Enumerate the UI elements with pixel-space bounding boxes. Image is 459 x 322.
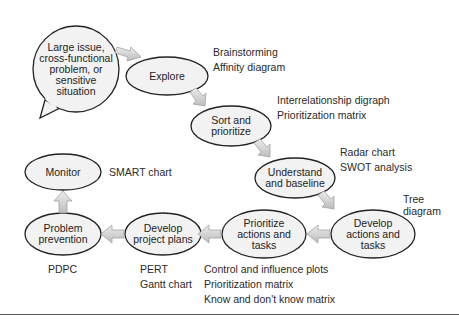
node-sort-label: Sort and prioritize	[191, 114, 271, 138]
tool-radar-chart: Radar chart	[340, 145, 395, 160]
tool-gantt-chart: Gantt chart	[140, 277, 192, 292]
node-develop-actions-label: Develop actions and tasks	[331, 217, 415, 251]
node-prioritize-actions-label: Prioritize actions and tasks	[222, 217, 306, 251]
tool-pert: PERT	[140, 262, 168, 277]
node-understand-label: Understand and baseline	[255, 166, 335, 190]
tool-know-dont-know-matrix: Know and don't know matrix	[204, 292, 335, 307]
tool-swot-analysis: SWOT analysis	[340, 160, 412, 175]
node-develop-plans-label: Develop project plans	[125, 222, 201, 246]
tool-brainstorming: Brainstorming	[213, 45, 278, 60]
node-prevention-label: Problem prevention	[25, 222, 101, 246]
tool-prioritization-matrix-2: Prioritization matrix	[204, 277, 293, 292]
start-issue-label: Large issue, cross-functional problem, o…	[33, 40, 119, 98]
tool-interrelationship-digraph: Interrelationship digraph	[277, 93, 390, 108]
tool-pdpc: PDPC	[48, 262, 77, 277]
tool-tree-diagram: Tree diagram	[403, 193, 441, 217]
node-explore-label: Explore	[126, 64, 208, 88]
tool-prioritization-matrix: Prioritization matrix	[277, 108, 366, 123]
tool-control-influence-plots: Control and influence plots	[204, 262, 328, 277]
node-monitor-label: Monitor	[25, 160, 101, 184]
bottom-divider	[0, 314, 459, 315]
tool-affinity-diagram: Affinity diagram	[213, 60, 285, 75]
tool-smart-chart: SMART chart	[109, 165, 172, 180]
